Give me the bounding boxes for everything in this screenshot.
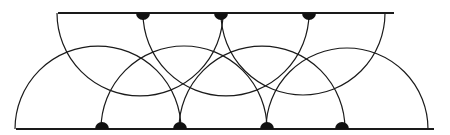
bottom-dots bbox=[95, 122, 349, 129]
bottom-dot bbox=[335, 122, 349, 129]
top-dots bbox=[136, 13, 316, 20]
top-dot bbox=[302, 13, 316, 20]
bottom-arc bbox=[266, 48, 428, 129]
top-dot bbox=[214, 13, 228, 20]
bottom-dot bbox=[260, 122, 274, 129]
top-dot bbox=[136, 13, 150, 20]
bottom-dot bbox=[95, 122, 109, 129]
bottom-arcs bbox=[15, 46, 428, 129]
top-arc bbox=[221, 13, 385, 95]
top-arc bbox=[57, 13, 223, 96]
bottom-arc bbox=[101, 46, 267, 129]
arc-diagram bbox=[0, 0, 450, 135]
bottom-dot bbox=[173, 122, 187, 129]
